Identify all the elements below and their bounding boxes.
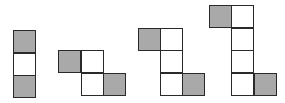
shaded-square: [182, 73, 205, 96]
shaded-square: [254, 73, 277, 96]
shaded-square: [209, 5, 232, 28]
unshaded-square: [231, 73, 254, 96]
unshaded-square: [160, 28, 183, 51]
unshaded-square: [160, 73, 183, 96]
unshaded-square: [231, 50, 254, 73]
unshaded-square: [231, 5, 254, 28]
shaded-square: [103, 73, 126, 96]
pattern-diagram: [0, 0, 285, 103]
unshaded-square: [81, 73, 104, 96]
shaded-square: [138, 28, 161, 51]
unshaded-square: [81, 50, 104, 73]
unshaded-square: [160, 50, 183, 73]
unshaded-square: [13, 53, 36, 76]
shaded-square: [13, 75, 36, 98]
unshaded-square: [231, 28, 254, 51]
shaded-square: [13, 30, 36, 53]
shaded-square: [58, 50, 81, 73]
